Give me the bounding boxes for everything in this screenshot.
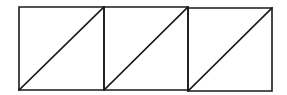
diagonal-line-1 bbox=[19, 7, 104, 90]
cells-group bbox=[19, 7, 272, 91]
three-squares-diagram bbox=[0, 0, 287, 95]
diagonal-line-3 bbox=[188, 8, 272, 91]
diagonal-line-2 bbox=[104, 7, 188, 90]
